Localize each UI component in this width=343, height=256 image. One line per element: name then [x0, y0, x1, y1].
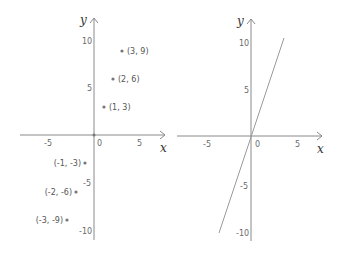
figure: y x -5 0 5 10 5 -5 -10 (3, 9) (2, 6) (1,… [0, 0, 343, 256]
x-tick-0: 0 [255, 140, 260, 149]
point-label-1-3: (1, 3) [109, 103, 131, 112]
y-tick-5: 5 [244, 86, 249, 95]
point-label-minus2-minus6: (-2, -6) [45, 188, 72, 197]
point-3-9 [120, 49, 123, 52]
point-2-6 [111, 77, 114, 80]
point-label-3-9: (3, 9) [127, 47, 149, 56]
y-tick-5: 5 [87, 84, 92, 93]
y-tick-minus10: -10 [79, 227, 92, 236]
x-axis-label: x [160, 141, 167, 155]
point-label-minus1-minus3: (-1, -3) [54, 159, 81, 168]
point-minus2-minus6 [74, 190, 77, 193]
y-tick-minus10: -10 [236, 229, 249, 238]
y-tick-10: 10 [82, 37, 92, 46]
x-tick-minus5: -5 [44, 139, 52, 148]
x-tick-5: 5 [295, 140, 300, 149]
point-1-3 [102, 105, 105, 108]
y-tick-10: 10 [239, 39, 249, 48]
y-axis-label: y [236, 14, 244, 28]
point-label-minus3-minus9: (-3, -9) [36, 216, 63, 225]
y-tick-minus5: -5 [83, 179, 91, 188]
y-tick-minus5: -5 [240, 182, 248, 191]
point-label-2-6: (2, 6) [118, 75, 140, 84]
x-axis-label: x [317, 142, 324, 156]
left-plot: y x -5 0 5 10 5 -5 -10 (3, 9) (2, 6) (1,… [20, 13, 167, 240]
x-tick-minus5: -5 [203, 140, 211, 149]
x-tick-0: 0 [97, 139, 102, 148]
x-tick-5: 5 [137, 139, 142, 148]
point-minus1-minus3 [83, 161, 86, 164]
y-axis-label: y [79, 13, 87, 27]
point-minus3-minus9 [65, 218, 68, 221]
right-plot: y x -5 0 5 10 5 -5 -10 [177, 14, 324, 241]
origin-dot [93, 134, 96, 137]
